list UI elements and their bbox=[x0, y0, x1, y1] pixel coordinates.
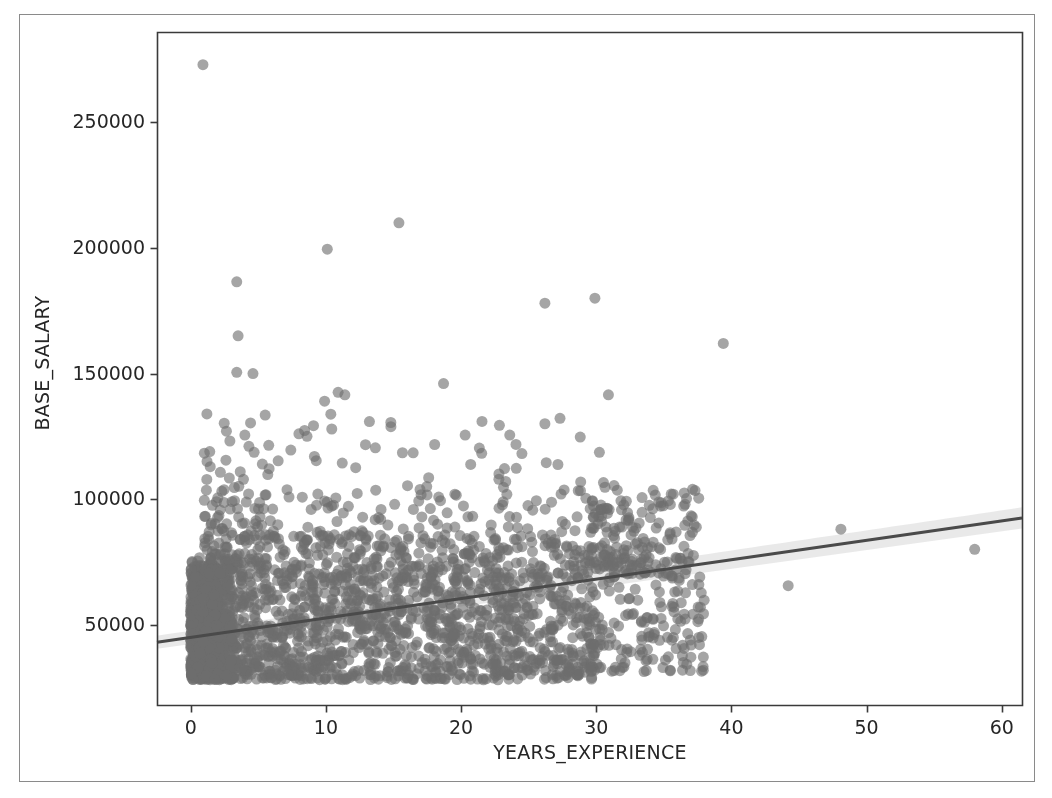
y-axis-label: BASE_SALARY bbox=[31, 263, 53, 463]
x-axis-label: YEARS_EXPERIENCE bbox=[0, 741, 1052, 763]
y-tick-label: 150000 bbox=[72, 362, 145, 384]
x-tick-label: 60 bbox=[962, 716, 1042, 738]
scatter-plot-figure: BASE_SALARY YEARS_EXPERIENCE 50000100000… bbox=[0, 0, 1052, 798]
x-tick-label: 0 bbox=[151, 716, 231, 738]
y-tick-label: 50000 bbox=[85, 613, 145, 635]
y-tick-label: 250000 bbox=[72, 110, 145, 132]
x-tick-label: 40 bbox=[691, 716, 771, 738]
scatter-plot-canvas bbox=[0, 0, 1052, 798]
x-tick-label: 10 bbox=[286, 716, 366, 738]
x-tick-label: 20 bbox=[421, 716, 501, 738]
x-tick-label: 30 bbox=[556, 716, 636, 738]
y-tick-label: 200000 bbox=[72, 236, 145, 258]
x-tick-label: 50 bbox=[827, 716, 907, 738]
y-tick-label: 100000 bbox=[72, 487, 145, 509]
